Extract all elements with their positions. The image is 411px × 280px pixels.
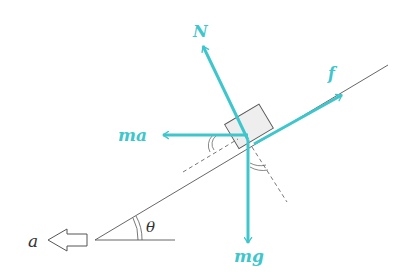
angle-arc-mg	[250, 163, 266, 166]
acceleration-arrow-icon	[48, 229, 87, 251]
label-acceleration: a	[28, 231, 38, 251]
label-normal: N	[192, 22, 209, 41]
theta-arc	[133, 218, 138, 240]
angle-arc-ma	[212, 136, 216, 150]
incline-surface	[95, 65, 388, 240]
dashed-incline-extension	[183, 139, 238, 172]
dashed-normal-extension	[252, 147, 287, 202]
angle-arc-ma-outer	[208, 136, 212, 152]
label-weight: mg	[234, 246, 264, 266]
diagram-canvas: N f ma mg θ a	[0, 0, 411, 280]
label-pseudo: ma	[118, 125, 147, 145]
label-theta: θ	[146, 218, 155, 236]
label-friction: f	[327, 64, 338, 83]
